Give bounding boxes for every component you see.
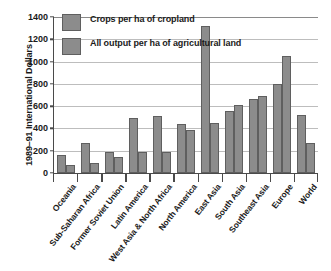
x-tick-mark [198,173,199,182]
x-tick-mark [125,173,126,182]
y-tick-label-1000: 1000 [8,57,54,67]
bar-all-output [66,165,75,173]
bar-all-output [258,96,267,173]
bar-all-output [186,130,195,173]
bar-chart: 1989–91 International Dollars 0200400600… [0,0,331,271]
legend-item: Crops per ha of cropland [62,14,241,31]
bar-all-output [90,163,99,173]
bar-all-output [282,56,291,173]
bar-crops [249,99,258,173]
bar-group [294,17,318,173]
x-tick-mark [149,173,150,182]
y-tick-label-1200: 1200 [8,34,54,44]
bar-group [270,17,294,173]
x-tick-mark [101,173,102,182]
x-axis-label: World [297,182,319,206]
bar-crops [81,143,90,173]
bar-crops [273,84,282,173]
legend-swatch-crops [62,14,81,31]
legend-label-all-output: All output per ha of agricultural land [90,38,241,49]
bar-crops [129,118,138,173]
x-tick-mark [53,173,54,182]
bar-all-output [306,143,315,173]
bar-crops [57,155,66,173]
x-axis-label: Europe [269,182,294,211]
y-tick-label-200: 200 [8,146,54,156]
y-tick-label-600: 600 [8,101,54,111]
x-tick-mark [294,173,295,182]
bar-crops [153,116,162,173]
x-tick-mark [246,173,247,182]
y-tick-label-0: 0 [8,168,54,178]
x-tick-mark [270,173,271,182]
bar-all-output [234,105,243,173]
legend-swatch-all-output [62,38,81,55]
x-tick-mark [173,173,174,182]
x-tick-mark [77,173,78,182]
bar-all-output [138,152,147,173]
x-tick-mark [222,173,223,182]
bar-crops [225,111,234,173]
bar-all-output [114,157,123,173]
legend-label-crops: Crops per ha of cropland [90,14,195,25]
bar-group [246,17,270,173]
x-tick-mark [317,173,318,182]
y-tick-label-1400: 1400 [8,12,54,22]
bar-crops [105,152,114,173]
legend: Crops per ha of cropland All output per … [62,14,241,55]
bar-all-output [210,123,219,173]
bar-crops [297,115,306,173]
y-tick-label-400: 400 [8,123,54,133]
bar-all-output [162,152,171,173]
legend-item: All output per ha of agricultural land [62,38,241,55]
y-tick-label-800: 800 [8,79,54,89]
x-axis-labels: OceaniaSub-Saharan AfricaFormer Soviet U… [53,182,318,268]
bar-crops [177,124,186,173]
